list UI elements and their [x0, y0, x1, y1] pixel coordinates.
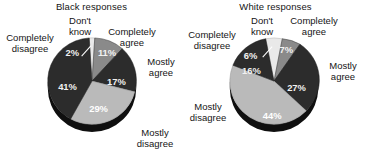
label-dont-know-white-line1: Don't	[240, 16, 284, 27]
label-mostly-agree-black-line1: Mostly	[139, 57, 183, 68]
pct-completely-agree-white: 7%	[279, 44, 293, 55]
chart-panel-white-responses: White responses Don't know Completely ag…	[184, 0, 367, 158]
pie-white-svg: 7% 27% 44% 16% 6%	[227, 36, 321, 132]
chart-panel-black-responses: Black responses Don't know Completely ag…	[0, 0, 183, 158]
pie-black-svg: 11% 17% 29% 41% 2%	[45, 36, 139, 132]
label-mostly-disagree-black-line2: disagree	[127, 139, 183, 150]
pct-mostly-disagree-black: 29%	[89, 103, 108, 114]
pct-completely-disagree-black: 41%	[58, 81, 77, 92]
label-mostly-agree-black: Mostly agree	[139, 57, 183, 78]
label-dont-know-black: Don't know	[58, 16, 102, 37]
label-dont-know-white: Don't know	[240, 16, 284, 37]
pie-black-responses: 11% 17% 29% 41% 2%	[45, 36, 139, 132]
label-completely-agree-white-line1: Completely	[283, 16, 345, 27]
pct-mostly-agree-white: 27%	[287, 82, 306, 93]
chart-title-black: Black responses	[0, 1, 183, 12]
pct-dont-know-black: 2%	[65, 47, 79, 58]
label-mostly-agree-white-line2: agree	[321, 72, 365, 83]
pct-completely-disagree-white: 16%	[242, 65, 261, 76]
chart-title-white: White responses	[184, 1, 367, 12]
label-dont-know-black-line1: Don't	[58, 16, 102, 27]
pie-white-responses: 7% 27% 44% 16% 6%	[227, 36, 321, 132]
label-mostly-agree-black-line2: agree	[139, 68, 183, 79]
pct-completely-agree-black: 11%	[98, 47, 117, 58]
pct-mostly-agree-black: 17%	[107, 76, 126, 87]
label-completely-agree-white: Completely agree	[283, 16, 345, 37]
pct-dont-know-white: 6%	[244, 50, 258, 61]
label-mostly-agree-white-line1: Mostly	[321, 61, 365, 72]
two-pie-chart-figure: Black responses Don't know Completely ag…	[0, 0, 367, 158]
pct-mostly-disagree-white: 44%	[263, 109, 282, 120]
label-mostly-agree-white: Mostly agree	[321, 61, 365, 82]
